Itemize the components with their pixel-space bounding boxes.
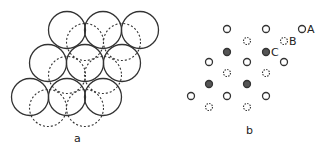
site-a-marker — [263, 93, 270, 100]
site-b-marker — [224, 70, 231, 77]
panel-a-label: a — [74, 132, 81, 145]
site-b-marker — [244, 104, 251, 111]
site-a-marker — [263, 26, 270, 33]
site-c-marker — [206, 81, 213, 88]
site-a-marker — [224, 26, 231, 33]
panel-a-sphere-layers — [12, 12, 159, 127]
site-a-marker — [188, 93, 195, 100]
site-c-marker — [263, 49, 270, 56]
site-b-marker — [281, 38, 288, 45]
site-label-b: B — [289, 35, 297, 48]
layer-a-sphere — [12, 79, 49, 116]
site-c-marker — [224, 49, 231, 56]
site-a-marker — [244, 59, 251, 66]
site-a-marker — [299, 26, 306, 33]
site-c-marker — [244, 81, 251, 88]
panel-b-site-projection: ABC — [188, 23, 316, 111]
site-a-marker — [281, 59, 288, 66]
site-a-marker — [224, 93, 231, 100]
site-b-marker — [244, 38, 251, 45]
site-b-marker — [263, 70, 270, 77]
site-b-marker — [206, 104, 213, 111]
site-label-a: A — [307, 23, 315, 36]
site-label-c: C — [271, 46, 279, 59]
panel-b-label: b — [246, 124, 253, 137]
close-packing-diagram: ABC a b — [0, 0, 324, 149]
site-a-marker — [206, 59, 213, 66]
layer-a-sphere — [85, 79, 122, 116]
layer-a-sphere — [49, 79, 86, 116]
